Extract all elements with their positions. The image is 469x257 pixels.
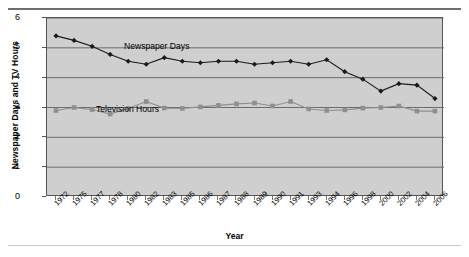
data-point — [90, 107, 95, 112]
y-tick-label: 0 — [0, 192, 20, 201]
data-point — [324, 108, 329, 113]
data-point — [415, 109, 420, 114]
data-point — [198, 60, 203, 65]
data-point — [288, 99, 293, 104]
data-point — [396, 81, 401, 86]
data-point — [252, 62, 257, 67]
data-point — [379, 105, 384, 110]
data-point — [54, 108, 59, 113]
x-axis-ticks: 1972197519771978198019821983198519861987… — [0, 0, 469, 60]
data-point — [252, 101, 257, 106]
data-point — [360, 106, 365, 111]
data-point — [270, 104, 275, 109]
data-point — [198, 105, 203, 110]
data-point — [72, 105, 77, 110]
y-tick-mark — [42, 196, 46, 197]
x-axis-title: Year — [0, 231, 469, 241]
series-label-television: Television Hours — [96, 104, 159, 114]
data-point — [306, 62, 311, 67]
y-tick-label: 4 — [0, 72, 20, 81]
data-point — [180, 106, 185, 111]
data-point — [234, 102, 239, 107]
y-tick-label: 3 — [0, 102, 20, 111]
data-point — [342, 108, 347, 113]
data-point — [433, 109, 438, 114]
bottom-divider — [8, 245, 461, 246]
data-point — [270, 60, 275, 65]
data-point — [216, 103, 221, 108]
data-point — [162, 106, 167, 111]
data-point — [306, 107, 311, 112]
chart-figure: Newspaper Days and TV Hours Year 0123456… — [0, 0, 469, 257]
data-point — [397, 104, 402, 109]
data-point — [144, 62, 149, 67]
y-tick-label: 1 — [0, 162, 20, 171]
y-tick-label: 2 — [0, 132, 20, 141]
